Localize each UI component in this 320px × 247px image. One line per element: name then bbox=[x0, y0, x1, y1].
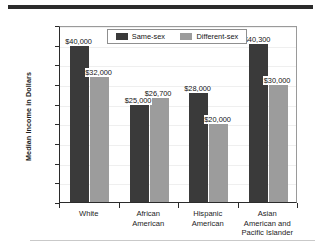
legend-label: Different-sex bbox=[196, 32, 238, 41]
bar bbox=[150, 97, 169, 202]
legend-label: Same-sex bbox=[132, 32, 165, 41]
bar bbox=[189, 92, 208, 202]
bar-value-label: $40,000 bbox=[65, 37, 93, 46]
plot-area: $40,000$32,000$25,000$26,700$28,000$20,0… bbox=[59, 26, 297, 203]
bar bbox=[249, 44, 268, 203]
chart-legend: Same-sexDifferent-sex bbox=[107, 29, 247, 44]
x-tick-mark bbox=[238, 203, 239, 208]
legend-swatch-icon bbox=[180, 33, 192, 40]
gridline bbox=[60, 27, 296, 28]
top-rule-divider bbox=[8, 5, 313, 9]
bar-value-label: $20,000 bbox=[204, 115, 232, 124]
x-tick-mark bbox=[59, 203, 60, 208]
y-axis-title: Median Income in Dollars bbox=[24, 42, 33, 192]
bar bbox=[269, 84, 288, 202]
x-category-label-line: Pacific Islander bbox=[227, 228, 307, 238]
bar-value-label: $32,000 bbox=[85, 68, 113, 77]
bar-value-label: $28,000 bbox=[184, 84, 212, 93]
bar bbox=[130, 104, 149, 202]
bar-chart-figure: Median Income in Dollars 45,00040,00035,… bbox=[0, 0, 320, 247]
x-tick-mark bbox=[297, 203, 298, 208]
x-category-label-line: Asian bbox=[227, 209, 307, 219]
bar bbox=[90, 76, 109, 202]
x-category-label: AsianAmerican andPacific Islander bbox=[227, 209, 307, 238]
x-category-label-line: American and bbox=[227, 219, 307, 229]
bar-value-label: $26,700 bbox=[144, 89, 172, 98]
bar-value-label: $40,300 bbox=[243, 35, 271, 44]
bottom-rule-divider bbox=[30, 240, 315, 241]
bar-value-label: $30,000 bbox=[263, 76, 291, 85]
bar bbox=[209, 123, 228, 202]
x-tick-mark bbox=[178, 203, 179, 208]
legend-swatch-icon bbox=[116, 33, 128, 40]
legend-entry: Different-sex bbox=[180, 32, 238, 41]
legend-entry: Same-sex bbox=[116, 32, 165, 41]
x-tick-mark bbox=[119, 203, 120, 208]
